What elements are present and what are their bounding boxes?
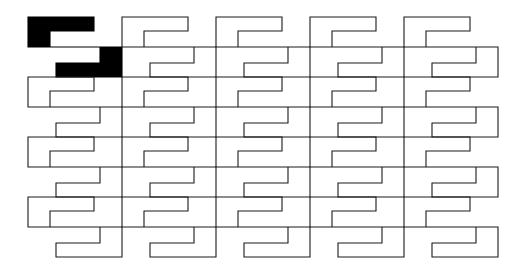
tessellation-figure: A plane tessellation built from a single…: [0, 0, 528, 268]
tessellation-canvas: [0, 0, 528, 268]
figure-background: [0, 0, 528, 268]
